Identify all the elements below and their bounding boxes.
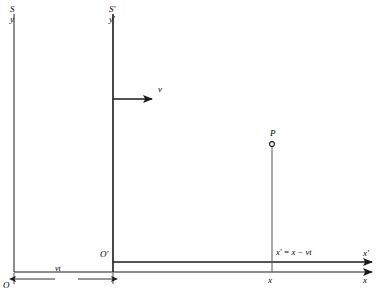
axis-label-y: y xyxy=(10,15,14,24)
point-P-marker xyxy=(270,142,275,147)
frame-label-S: S xyxy=(10,5,15,14)
origin-label-O-prime: O′ xyxy=(100,250,108,259)
point-label-P: P xyxy=(270,129,276,138)
axis-label-x: x xyxy=(363,276,367,285)
axis-label-y-prime: y′ xyxy=(109,15,115,24)
galilean-transformation-figure: S y S′ y′ v P O′ O vt x′ = x − vt x x′ x xyxy=(0,0,391,301)
coordinate-label-x-foot: x xyxy=(268,276,272,285)
axis-label-x-prime: x′ xyxy=(363,249,369,258)
figure-canvas xyxy=(0,0,391,301)
frame-label-S-prime: S′ xyxy=(109,5,115,14)
separation-label: vt xyxy=(55,265,61,273)
transformation-equation: x′ = x − vt xyxy=(276,248,312,257)
velocity-label: v xyxy=(158,85,162,94)
origin-label-O: O xyxy=(3,281,10,290)
